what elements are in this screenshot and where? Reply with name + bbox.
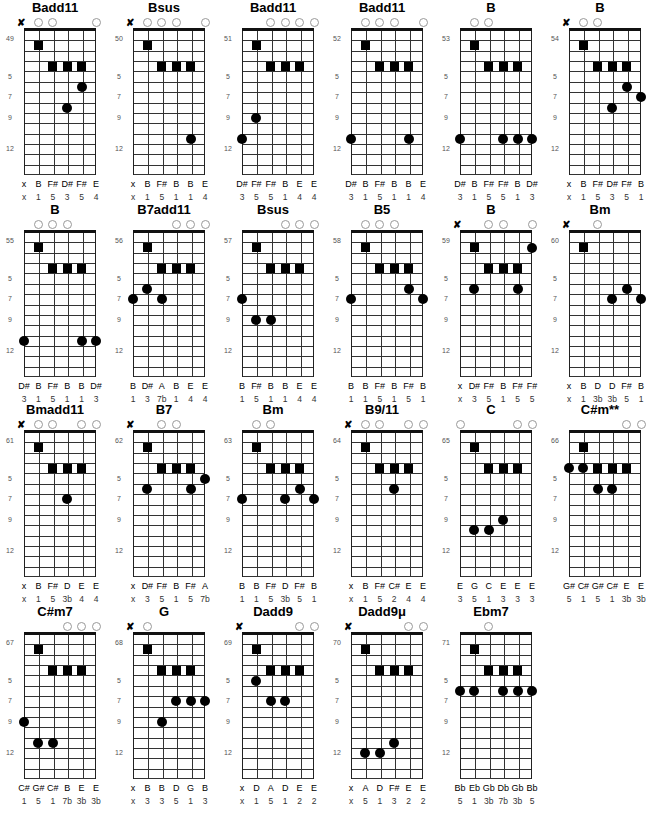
- string-line: [177, 634, 178, 779]
- interval-label: 1: [306, 594, 322, 604]
- fretboard-grid: [242, 432, 314, 577]
- finger-square-marker: [295, 62, 304, 71]
- fret-line: [570, 473, 640, 474]
- open-string-icon: [92, 420, 101, 429]
- fretboard-grid: [569, 432, 641, 577]
- fret-line: [352, 576, 422, 577]
- fret-line: [461, 727, 531, 728]
- fret-line: [461, 576, 531, 577]
- finger-dot-marker: [62, 103, 72, 113]
- nut-bar: [24, 230, 96, 233]
- fret-number-label: 5: [327, 275, 347, 282]
- fret-line: [352, 376, 422, 377]
- fret-number-label: 9: [109, 316, 129, 323]
- fret-line: [134, 778, 204, 779]
- fret-line: [461, 315, 531, 316]
- finger-square-marker: [499, 464, 508, 473]
- fret-number-label: 12: [545, 145, 565, 152]
- fret-line: [134, 556, 204, 557]
- fret-line: [134, 346, 204, 347]
- string-line: [83, 232, 84, 377]
- fret-line: [352, 367, 422, 368]
- interval-label: 3b: [633, 594, 649, 604]
- finger-dot-marker: [455, 686, 465, 696]
- fret-line: [243, 778, 313, 779]
- string-line: [584, 30, 585, 175]
- string-line: [177, 30, 178, 175]
- fret-line: [243, 686, 313, 687]
- fret-line: [570, 51, 640, 52]
- finger-square-marker: [143, 41, 152, 50]
- fret-line: [243, 103, 313, 104]
- fret-line: [134, 82, 204, 83]
- fretboard-grid: [460, 432, 532, 577]
- fret-line: [243, 336, 313, 337]
- fret-line: [461, 696, 531, 697]
- fret-line: [352, 336, 422, 337]
- fret-number-label: 9: [0, 516, 20, 523]
- open-string-icon: [48, 420, 57, 429]
- fret-line: [570, 174, 640, 175]
- fret-line: [25, 484, 95, 485]
- fret-number-label: 5: [218, 475, 238, 482]
- finger-square-marker: [63, 62, 72, 71]
- chord-number: 51: [218, 35, 238, 42]
- fret-line: [243, 346, 313, 347]
- finger-square-marker: [404, 666, 413, 675]
- chord-diagram: B55857912BBF#BF#B115151: [327, 202, 436, 402]
- fret-number-label: 5: [327, 475, 347, 482]
- fret-number-label: 7: [545, 93, 565, 100]
- string-line: [628, 432, 629, 577]
- nut-bar: [242, 430, 314, 433]
- fret-line: [134, 738, 204, 739]
- fret-line: [243, 284, 313, 285]
- chord-title: Badd11: [10, 0, 100, 15]
- string-note-label: Bb: [524, 783, 540, 793]
- fretboard-grid: [351, 30, 423, 175]
- open-string-icon: [528, 420, 537, 429]
- chord-title: Bm: [555, 202, 645, 217]
- string-line: [148, 30, 149, 175]
- interval-label: 4: [88, 192, 104, 202]
- fret-line: [243, 273, 313, 274]
- open-string-icon: [375, 420, 384, 429]
- nut-bar: [133, 632, 205, 635]
- string-line: [519, 232, 520, 377]
- fret-line: [134, 717, 204, 718]
- fretboard-grid: [242, 30, 314, 175]
- fret-number-label: 7: [218, 495, 238, 502]
- fret-line: [243, 727, 313, 728]
- string-note-label: E: [306, 783, 322, 793]
- string-line: [599, 432, 600, 577]
- string-line: [257, 30, 258, 175]
- chord-title: Dadd9: [228, 604, 318, 619]
- chord-number: 60: [545, 237, 565, 244]
- fret-number-label: 12: [109, 145, 129, 152]
- finger-square-marker: [157, 62, 166, 71]
- chord-number: 59: [436, 237, 456, 244]
- fret-number-label: 7: [109, 697, 129, 704]
- chord-title: B: [446, 0, 536, 15]
- string-line: [410, 30, 411, 175]
- finger-dot-marker: [622, 82, 632, 92]
- open-string-icon: [48, 220, 57, 229]
- finger-square-marker: [281, 264, 290, 273]
- string-line: [177, 432, 178, 577]
- nut-bar: [133, 28, 205, 31]
- finger-square-marker: [172, 62, 181, 71]
- fret-line: [352, 758, 422, 759]
- fret-line: [461, 505, 531, 506]
- open-string-icon: [513, 420, 522, 429]
- fret-line: [352, 727, 422, 728]
- fretboard-grid: [24, 30, 96, 175]
- fret-line: [134, 576, 204, 577]
- finger-square-marker: [390, 666, 399, 675]
- finger-square-marker: [375, 666, 384, 675]
- string-note-label: E: [197, 179, 213, 189]
- open-string-icon: [157, 420, 166, 429]
- finger-square-marker: [593, 62, 602, 71]
- string-line: [584, 232, 585, 377]
- chord-diagram: B5557912D#BF#BBD#315113: [0, 202, 109, 402]
- chord-diagram: Ebm77157912BbEbGbDbGbBb513b7b3b5: [436, 604, 545, 804]
- fret-line: [134, 315, 204, 316]
